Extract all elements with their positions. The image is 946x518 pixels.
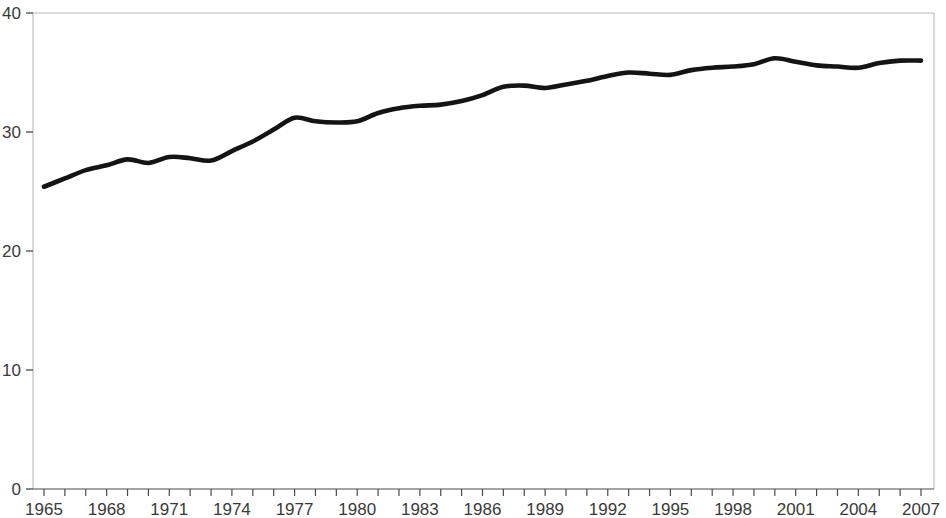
x-tick-label: 1986 (464, 500, 502, 518)
line-chart: 010203040 196519681971197419771980198319… (0, 0, 946, 518)
y-tick-label: 20 (2, 242, 21, 261)
y-tick-label: 40 (2, 4, 21, 23)
x-tick-label: 1983 (401, 500, 439, 518)
x-tick-label: 2007 (902, 500, 940, 518)
x-tick-label: 1989 (526, 500, 564, 518)
chart-background (0, 0, 946, 518)
x-tick-label: 1971 (150, 500, 188, 518)
chart-container: 010203040 196519681971197419771980198319… (0, 0, 946, 518)
x-tick-label: 1977 (276, 500, 314, 518)
x-tick-label: 1995 (652, 500, 690, 518)
x-tick-label: 1998 (714, 500, 752, 518)
x-tick-label: 1965 (25, 500, 63, 518)
y-tick-label: 0 (12, 480, 21, 499)
x-tick-label: 1968 (88, 500, 126, 518)
x-tick-label: 2004 (839, 500, 877, 518)
x-tick-label: 1992 (589, 500, 627, 518)
y-tick-label: 10 (2, 361, 21, 380)
x-tick-label: 1980 (338, 500, 376, 518)
x-tick-label: 1974 (213, 500, 251, 518)
x-tick-label: 2001 (777, 500, 815, 518)
x-axis-tick-labels: 1965196819711974197719801983198619891992… (25, 500, 940, 518)
y-tick-label: 30 (2, 123, 21, 142)
